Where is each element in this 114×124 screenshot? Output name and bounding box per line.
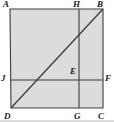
vertex-label-b: B bbox=[97, 0, 103, 9]
vertex-label-e: E bbox=[70, 67, 76, 76]
vertex-label-j: J bbox=[1, 74, 6, 83]
vertex-label-d: D bbox=[4, 112, 11, 121]
vertex-label-h: H bbox=[73, 0, 80, 9]
figure-canvas bbox=[0, 0, 114, 124]
vertex-label-c: C bbox=[98, 112, 104, 121]
vertex-label-a: A bbox=[3, 0, 9, 9]
vertex-label-f: F bbox=[105, 74, 111, 83]
vertex-label-g: G bbox=[74, 112, 81, 121]
geometry-figure: A B C D E F G H J bbox=[0, 0, 114, 124]
